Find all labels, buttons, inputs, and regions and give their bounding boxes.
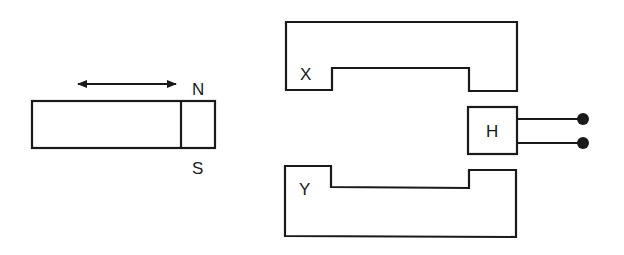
- hall-sensor: H: [468, 107, 589, 154]
- core-x-label: X: [300, 65, 311, 84]
- terminal-dot-icon: [577, 113, 589, 125]
- bar-magnet: N S: [32, 80, 215, 178]
- terminal-dot-icon: [577, 137, 589, 149]
- core-y-outline: [285, 166, 516, 237]
- south-pole-label: S: [192, 159, 203, 178]
- diagram-canvas: N S X Y H: [0, 0, 624, 255]
- core-y-label: Y: [299, 180, 310, 199]
- core-x: X: [286, 22, 517, 91]
- magnet-body: [32, 101, 215, 148]
- sensor-label: H: [486, 122, 498, 141]
- core-y: Y: [285, 166, 516, 237]
- core-x-outline: [286, 22, 517, 91]
- north-pole-label: N: [192, 80, 204, 99]
